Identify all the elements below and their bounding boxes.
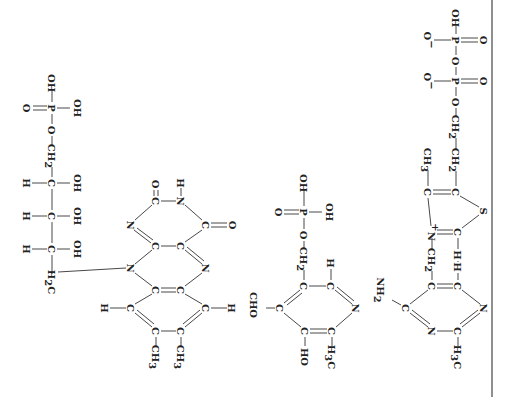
atom-label-t_ch3_thz: CH3 <box>420 148 434 172</box>
atom-label-t_p2: P <box>451 77 462 85</box>
atom-label-f_o_right: O <box>228 221 239 230</box>
atom-label-p1_ch2: CH2 <box>44 144 58 168</box>
atom-label-r1_h1: H <box>22 178 33 187</box>
atom-label-t_od2: O <box>479 77 490 86</box>
atom-label-f_o_top: O <box>151 180 162 189</box>
atom-label-t_pm_h3c: H3C <box>450 345 464 369</box>
atom-label-f_n_a: N <box>176 196 187 205</box>
atom-label-f_c_f: C <box>176 286 187 294</box>
atom-label-py_c_d: C <box>300 327 311 335</box>
atom-label-t_om2: O− <box>423 72 438 89</box>
flavin-mononucleotide-structure: OHPOOHOCH2CHOHCHOHCHOHH2COHCNNCOCCNNCCCH… <box>22 74 239 369</box>
atom-label-t_pm_n_right: N <box>479 303 490 312</box>
atom-label-t_s: S <box>479 207 490 214</box>
atom-label-t_nh2: NH2 <box>373 277 387 303</box>
atom-label-t_o_ester: O <box>451 98 462 107</box>
atom-label-py_c_b: C <box>326 282 337 290</box>
atom-label-t_oh_top: OH <box>451 9 462 27</box>
atom-label-py_n: N <box>351 303 362 312</box>
atom-label-p2_p: P <box>299 208 310 216</box>
atom-label-t_pm_c_nh2: C <box>401 304 412 312</box>
atom-label-p2_ch2: CH2 <box>296 247 310 271</box>
atom-label-r1_c3: C <box>47 245 58 253</box>
atom-label-t_c_thz2: C <box>423 188 434 196</box>
atom-label-py_c_e: C <box>327 327 338 335</box>
atom-label-r1_oh1: OH <box>73 174 84 192</box>
atom-label-f_h_top: H <box>176 178 187 187</box>
atom-label-p2_o: O <box>299 231 310 240</box>
atom-label-p2_o_dbl: O <box>274 208 285 217</box>
atom-label-p2_oh_right: OH <box>325 203 336 221</box>
atom-label-py_c_c: C <box>275 304 286 312</box>
atom-label-py_ho: HO <box>300 348 311 366</box>
atom-label-t_pm_c_me: C <box>453 327 464 335</box>
atom-label-t_o_bridge: O <box>451 57 462 66</box>
atom-label-f_c_i: C <box>151 327 162 335</box>
atom-label-py_h3c: H3C <box>324 345 338 369</box>
atom-label-f_n_d: N <box>201 263 212 272</box>
atom-label-t_om1: O− <box>423 31 438 48</box>
atom-label-r1_c1: C <box>47 179 58 187</box>
atom-label-t_p1: P <box>451 36 462 44</box>
atom-label-py_c_a: C <box>299 282 310 290</box>
atom-label-f_ch3_j: CH3 <box>173 345 187 369</box>
atom-label-r1_h3: H <box>22 244 33 253</box>
atom-label-f_n_b: N <box>126 220 137 229</box>
atom-label-f_c_j: C <box>176 327 187 335</box>
atom-label-f_n_c: N <box>126 263 137 272</box>
atom-label-t_od1: O <box>479 36 490 45</box>
atom-label-f_c_d: C <box>176 242 187 250</box>
atom-label-f_h_h: H <box>227 303 238 312</box>
atom-label-f_c_e: C <box>151 286 162 294</box>
atom-label-t_pm_n_bot: N <box>427 326 438 335</box>
atom-label-t_c_thz1: C <box>451 188 462 196</box>
atom-label-t_ch2_b: CH2 <box>448 148 462 172</box>
atom-label-p1_oh_top: OH <box>47 74 58 92</box>
atom-label-t_pm_h_b: H <box>453 262 464 271</box>
atom-label-t_nplus: +N <box>427 223 442 241</box>
atom-label-r1_c2: C <box>47 212 58 220</box>
atom-label-t_h_thz3: H <box>453 250 464 259</box>
atom-label-r1_h2: H <box>22 211 33 220</box>
chemical-structures-figure: OHPOOHOCH2CHOHCHOHCHOHH2COHCNNCOCCNNCCCH… <box>0 0 509 397</box>
atom-label-t_c_thz3: C <box>453 228 464 236</box>
atom-label-p1_oh_right: OH <box>73 99 84 117</box>
atom-label-f_c_h: C <box>201 304 212 312</box>
atom-label-py_cho: CHO <box>249 292 260 318</box>
atom-label-t_ch2_a: CH2 <box>448 115 462 139</box>
atom-label-t_pm_c_a: C <box>427 282 438 290</box>
atom-label-r1_oh2: OH <box>73 207 84 225</box>
atom-label-p2_oh_top: OH <box>299 174 310 192</box>
atom-label-f_c_g: C <box>126 304 137 312</box>
atom-label-r1_h2c: H2C <box>44 270 58 294</box>
atom-label-p1_o_dbl: O <box>22 104 33 113</box>
atom-label-f_ch3_i: CH3 <box>148 345 162 369</box>
atom-label-f_h_g: H <box>100 303 111 312</box>
atom-label-f_c_a: C <box>151 197 162 205</box>
atom-label-f_c_c: C <box>151 242 162 250</box>
atom-label-r1_oh3: OH <box>73 240 84 258</box>
atom-label-py_h_b: H <box>326 258 337 267</box>
atom-label-t_ch2_link: CH2 <box>424 248 438 272</box>
atom-label-p1_p: P <box>47 104 58 112</box>
atom-label-t_pm_c_b: C <box>453 282 464 290</box>
atom-label-p1_o: O <box>47 126 58 135</box>
atom-label-f_c_b: C <box>201 221 212 229</box>
